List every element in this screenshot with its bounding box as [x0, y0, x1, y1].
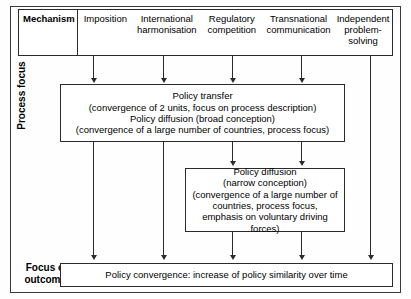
mechanism-header-row: Mechanism Imposition International harmo… — [18, 9, 393, 56]
box-policy-transfer-line-1: Policy transfer — [172, 90, 232, 101]
arrowhead-international-harmonisation-to-policy-transfer — [161, 78, 167, 83]
arrowhead-transnational-communication-narrow-to-policy-convergence — [299, 255, 305, 260]
connector-regulatory-competition-narrow-to-policy-convergence — [232, 232, 233, 256]
header-column-regulatory-competition: Regulatory competition — [201, 10, 263, 55]
arrowhead-imposition-to-policy-transfer — [91, 78, 97, 83]
arrowhead-regulatory-competition-to-policy-transfer — [230, 78, 236, 83]
box-policy-convergence: Policy convergence: increase of policy s… — [60, 263, 393, 287]
arrowhead-transnational-communication-to-policy-diffusion-narrow — [299, 161, 305, 166]
connector-imposition-to-policy-convergence — [93, 142, 94, 256]
connector-transnational-communication-narrow-to-policy-convergence — [301, 232, 302, 256]
arrowhead-transnational-communication-to-policy-transfer — [299, 78, 305, 83]
connector-regulatory-competition-to-policy-diffusion-narrow — [232, 142, 233, 162]
box-policy-convergence-line-1: Policy convergence: increase of policy s… — [105, 269, 347, 280]
axis-label-process-focus: Process focus — [16, 41, 27, 151]
connector-imposition-to-policy-transfer — [93, 56, 94, 79]
box-policy-diffusion-narrow-line-2: (narrow conception) — [223, 177, 307, 188]
header-column-international-harmonisation: International harmonisation — [133, 10, 201, 55]
arrowhead-independent-problem-solving-to-policy-convergence — [368, 255, 374, 260]
connector-transnational-communication-to-policy-transfer — [301, 56, 302, 79]
box-policy-transfer-line-2: (convergence of 2 units, focus on proces… — [89, 102, 317, 113]
header-column-independent-problem-solving: Independent problem-solving — [334, 10, 392, 55]
arrowhead-international-harmonisation-to-policy-convergence — [161, 255, 167, 260]
connector-regulatory-competition-to-policy-transfer — [232, 56, 233, 79]
box-policy-diffusion-narrow-line-1: Policy diffusion — [233, 166, 296, 177]
box-policy-transfer-line-3: Policy diffusion (broad conception) — [130, 113, 275, 124]
connector-international-harmonisation-to-policy-transfer — [163, 56, 164, 79]
header-column-imposition: Imposition — [78, 10, 133, 55]
box-policy-diffusion-narrow: Policy diffusion (narrow conception) (co… — [185, 168, 345, 232]
box-policy-diffusion-narrow-line-3: (convergence of a large number of countr… — [186, 189, 344, 235]
box-policy-transfer: Policy transfer (convergence of 2 units,… — [60, 84, 345, 142]
connector-transnational-communication-to-policy-diffusion-narrow — [301, 142, 302, 162]
arrowhead-regulatory-competition-narrow-to-policy-convergence — [230, 255, 236, 260]
header-column-transnational-communication: Transnational communication — [263, 10, 334, 55]
connector-international-harmonisation-to-policy-convergence — [163, 142, 164, 256]
arrowhead-imposition-to-policy-convergence — [91, 255, 97, 260]
policy-convergence-diagram: Mechanism Imposition International harmo… — [0, 0, 411, 299]
connector-independent-problem-solving-to-policy-convergence — [370, 56, 371, 256]
header-label-mechanism: Mechanism — [19, 10, 78, 55]
box-policy-transfer-line-4: (convergence of a large number of countr… — [76, 124, 329, 135]
